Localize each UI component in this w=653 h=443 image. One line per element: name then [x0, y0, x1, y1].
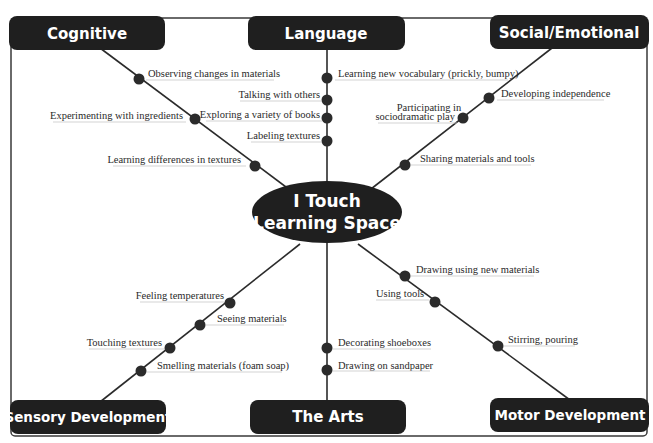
svg-text:Feeling temperatures: Feeling temperatures	[136, 290, 224, 301]
node-dot	[134, 74, 145, 85]
item-cognitive-1: Experimenting with ingredients	[50, 110, 200, 125]
item-language-0: Learning new vocabulary (prickly, bumpy)	[322, 68, 519, 84]
svg-text:Developing independence: Developing independence	[501, 88, 611, 99]
svg-text:Decorating shoeboxes: Decorating shoeboxes	[338, 337, 431, 348]
item-motor-0: Drawing using new materials	[400, 264, 540, 282]
svg-text:Drawing using new materials: Drawing using new materials	[416, 264, 539, 275]
svg-text:Drawing on sandpaper: Drawing on sandpaper	[338, 360, 434, 371]
category-motor-development: Motor Development	[490, 398, 649, 432]
node-dot	[322, 365, 333, 376]
item-arts-0: Decorating shoeboxes	[322, 337, 432, 354]
category-social-emotional: Social/Emotional	[490, 15, 649, 49]
center-node: I Touch Learning Space	[252, 181, 402, 243]
svg-text:Experimenting with ingredients: Experimenting with ingredients	[50, 110, 183, 121]
node-dot	[430, 297, 441, 308]
item-sensory-0: Feeling temperatures	[136, 290, 236, 309]
node-dot	[493, 341, 504, 352]
svg-text:Seeing materials: Seeing materials	[217, 313, 287, 324]
node-dot	[195, 320, 206, 331]
category-cognitive: Cognitive	[9, 16, 165, 50]
category-label-language: Language	[285, 25, 368, 43]
item-arts-1: Drawing on sandpaper	[322, 360, 434, 376]
node-dot	[190, 114, 201, 125]
node-dot	[458, 113, 469, 124]
category-label-sensory: Sensory Development	[4, 409, 172, 425]
node-dot	[225, 298, 236, 309]
svg-text:Touching textures: Touching textures	[87, 337, 162, 348]
center-title-line2: Learning Space	[253, 213, 401, 233]
item-motor-2: Stirring, pouring	[493, 334, 579, 352]
svg-text:Learning new vocabulary (prick: Learning new vocabulary (prickly, bumpy)	[338, 68, 519, 80]
node-dot	[322, 343, 333, 354]
node-dot	[136, 366, 147, 377]
item-language-1: Talking with others	[238, 89, 332, 106]
svg-text:Stirring, pouring: Stirring, pouring	[508, 334, 579, 345]
node-dot	[400, 271, 411, 282]
node-dot	[165, 343, 176, 354]
svg-text:Learning differences in textur: Learning differences in textures	[107, 154, 241, 165]
node-dot	[250, 161, 261, 172]
item-social-emotional-0: Developing independence	[484, 88, 611, 104]
node-dot	[322, 136, 333, 147]
node-dot	[322, 95, 333, 106]
category-sensory-development: Sensory Development	[4, 400, 172, 434]
node-dot	[484, 93, 495, 104]
category-label-cognitive: Cognitive	[47, 25, 127, 43]
svg-text:Sharing materials and tools: Sharing materials and tools	[420, 153, 535, 164]
category-language: Language	[248, 16, 405, 50]
category-label-arts: The Arts	[292, 408, 363, 426]
svg-text:Using tools: Using tools	[376, 288, 424, 299]
svg-text:Observing changes in materials: Observing changes in materials	[148, 68, 280, 79]
svg-text:sociodramatic play: sociodramatic play	[375, 111, 455, 122]
item-language-3: Labeling textures	[247, 130, 333, 147]
item-cognitive-2: Learning differences in textures	[107, 154, 260, 172]
item-sensory-3: Smelling materials (foam soap)	[136, 360, 290, 377]
node-dot	[322, 73, 333, 84]
svg-text:Smelling materials (foam soap): Smelling materials (foam soap)	[157, 360, 290, 372]
item-cognitive-0: Observing changes in materials	[134, 68, 281, 85]
item-social-emotional-2: Sharing materials and tools	[400, 153, 535, 171]
node-dot	[322, 113, 333, 124]
item-social-emotional-1: Participating in sociodramatic play	[375, 102, 468, 124]
category-label-social-emotional: Social/Emotional	[499, 24, 640, 42]
svg-text:Exploring a variety of books: Exploring a variety of books	[200, 109, 320, 120]
item-sensory-2: Touching textures	[87, 337, 176, 354]
svg-text:Talking with others: Talking with others	[238, 89, 320, 100]
category-the-arts: The Arts	[250, 400, 406, 434]
center-title-line1: I Touch	[293, 191, 361, 211]
svg-text:Labeling textures: Labeling textures	[247, 130, 320, 141]
node-dot	[400, 160, 411, 171]
concept-map: Cognitive Language Social/Emotional Sens…	[0, 0, 653, 443]
item-language-2: Exploring a variety of books	[200, 109, 333, 124]
category-label-motor: Motor Development	[495, 407, 647, 423]
